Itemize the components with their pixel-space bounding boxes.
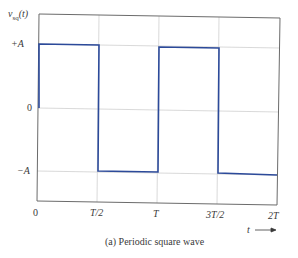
x-axis-arrow-icon <box>255 228 276 232</box>
figure-caption: (a) Periodic square wave <box>105 236 205 248</box>
y-tick-zero: 0 <box>27 102 32 113</box>
x-tick-T: T <box>153 208 160 219</box>
x-axis-label: t <box>247 224 250 235</box>
x-tick-half-T: T/2 <box>90 207 103 218</box>
y-axis-label: vsq(t) <box>8 8 29 22</box>
square-wave-line <box>39 44 277 175</box>
x-tick-0: 0 <box>33 207 38 218</box>
y-tick-plus-A: +A <box>11 38 25 49</box>
x-tick-3half-T: 3T/2 <box>205 209 224 220</box>
square-wave-figure: vsq(t) +A 0 −A 0 T/2 T 3T/2 2T t (a) Per… <box>0 0 298 258</box>
y-tick-minus-A: −A <box>17 165 31 176</box>
x-tick-2T: 2T <box>268 210 280 221</box>
